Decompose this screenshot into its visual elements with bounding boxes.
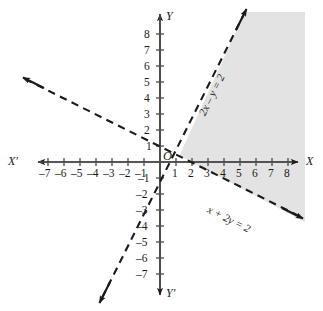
- y-tick-label: 1: [146, 141, 152, 153]
- x-tick-label: –6: [55, 168, 67, 180]
- y-tick-label: 7: [144, 45, 150, 57]
- line-x-plus-2y-arrow-left: [23, 78, 44, 89]
- y-tick-label: –4: [136, 221, 148, 233]
- origin-label: O: [163, 150, 172, 163]
- y-tick-label: 4: [144, 93, 150, 105]
- x-tick-label: –4: [87, 168, 99, 180]
- y-tick-label: –2: [136, 189, 148, 201]
- y-tick-label: –5: [136, 237, 148, 249]
- x-tick-label: 7: [268, 168, 274, 180]
- y-tick-label: –3: [136, 205, 148, 217]
- x-tick-label: 1: [172, 168, 178, 180]
- axis-label-x-positive: X: [306, 155, 313, 167]
- shaded-region-cap: [180, 12, 305, 222]
- y-tick-label: –6: [136, 253, 148, 265]
- x-tick-label: 3: [204, 168, 210, 180]
- x-tick-label: 5: [236, 168, 242, 180]
- x-tick-label: –3: [103, 168, 115, 180]
- x-tick-label: 6: [252, 168, 258, 180]
- y-tick-label: 6: [144, 61, 150, 73]
- line-2x-minus-y-arrow-down: [100, 282, 111, 303]
- x-tick-label: 4: [220, 168, 226, 180]
- y-tick-label: –1: [138, 173, 150, 185]
- x-tick-label: 2: [188, 168, 194, 180]
- axis-label-y-negative: Y': [166, 287, 175, 299]
- axis-label-x-negative: X': [8, 155, 18, 167]
- y-tick-label: 2: [144, 125, 150, 137]
- y-tick-label: –7: [136, 269, 148, 281]
- x-tick-label: –5: [71, 168, 83, 180]
- x-tick-label: –2: [119, 168, 131, 180]
- y-tick-label: 3: [144, 109, 150, 121]
- x-tick-label: 8: [284, 168, 290, 180]
- axis-label-y-positive: Y: [166, 10, 173, 22]
- y-tick-label: 5: [144, 77, 150, 89]
- x-tick-label: –7: [39, 168, 51, 180]
- y-tick-label: 8: [144, 29, 150, 41]
- graph-figure: [0, 0, 323, 311]
